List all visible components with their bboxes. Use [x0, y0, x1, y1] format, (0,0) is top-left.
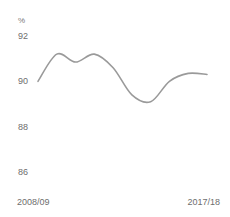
data-series-line: [38, 54, 207, 103]
line-chart: % 92 90 88 86 2008/09 2017/18: [0, 0, 230, 217]
plot-area: [0, 0, 230, 217]
